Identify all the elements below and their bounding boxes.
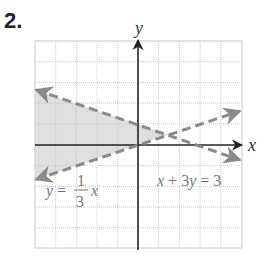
x-axis-label: x [247,135,256,155]
eq2-numerator: 1 [77,172,85,189]
inequality-graph: y x x + 3y = 3 y = 1 3 x [0,0,269,257]
equation-label-x-plus-3y: x + 3y = 3 [156,172,221,190]
eq2-y: y [44,182,54,200]
eq1-plus-3: + 3 [164,172,189,189]
eq1-x: x [156,172,164,189]
eq1-eq-3: = 3 [196,172,221,189]
eq2-denominator: 3 [76,193,84,210]
y-axis-label: y [133,18,143,38]
eq2-equals: = [57,182,66,199]
eq2-x: x [90,182,98,199]
